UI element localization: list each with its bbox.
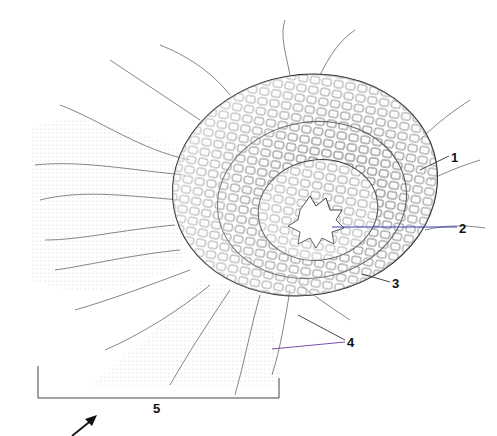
- leader-4a: [298, 315, 345, 340]
- arrow-icon: [72, 415, 97, 436]
- label-5: 5: [153, 402, 160, 415]
- label-3: 3: [392, 277, 399, 290]
- label-2: 2: [459, 222, 466, 235]
- label-1: 1: [451, 151, 458, 164]
- spiral-shell: [155, 54, 455, 317]
- diagram-figure: [0, 0, 497, 436]
- label-4: 4: [347, 336, 354, 349]
- leader-4b: [272, 342, 345, 349]
